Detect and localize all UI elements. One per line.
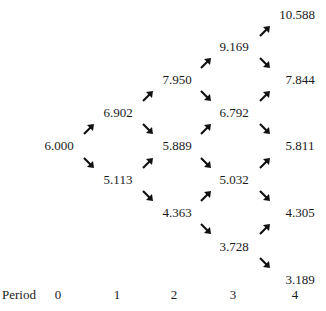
arrow-up-icon xyxy=(258,156,272,170)
node-p3-uud: 6.792 xyxy=(219,105,248,121)
period-0: 0 xyxy=(55,287,62,303)
arrow-down-icon xyxy=(258,189,272,203)
node-p2-ud: 5.889 xyxy=(162,138,191,154)
arrow-up-icon xyxy=(141,89,155,103)
arrow-down-icon xyxy=(199,222,213,236)
arrow-down-icon xyxy=(141,122,155,136)
node-p1-up: 6.902 xyxy=(103,105,132,121)
node-p2-dd: 4.363 xyxy=(162,205,191,221)
node-p4-uddd: 4.305 xyxy=(285,205,314,221)
node-p4-uuud: 7.844 xyxy=(285,72,314,88)
arrow-down-icon xyxy=(82,156,96,170)
node-p4-uuuu: 10.588 xyxy=(279,7,315,23)
node-p1-down: 5.113 xyxy=(104,172,133,188)
arrow-up-icon xyxy=(258,89,272,103)
arrow-up-icon xyxy=(199,56,213,70)
arrow-down-icon xyxy=(141,189,155,203)
period-3: 3 xyxy=(230,287,237,303)
arrow-up-icon xyxy=(258,222,272,236)
period-label: Period xyxy=(2,287,36,303)
arrow-down-icon xyxy=(258,56,272,70)
period-4: 4 xyxy=(292,287,299,303)
node-p3-uuu: 9.169 xyxy=(219,39,248,55)
arrow-up-icon xyxy=(141,156,155,170)
arrow-down-icon xyxy=(199,156,213,170)
period-2: 2 xyxy=(171,287,178,303)
arrow-up-icon xyxy=(199,189,213,203)
node-p4-uudd: 5.811 xyxy=(286,138,315,154)
arrow-down-icon xyxy=(258,256,272,270)
node-p0-0: 6.000 xyxy=(44,138,73,154)
node-p4-dddd: 3.189 xyxy=(285,272,314,288)
node-p2-uu: 7.950 xyxy=(162,72,191,88)
arrow-up-icon xyxy=(199,122,213,136)
arrow-down-icon xyxy=(258,122,272,136)
arrow-down-icon xyxy=(199,89,213,103)
node-p3-ddd: 3.728 xyxy=(219,239,248,255)
period-1: 1 xyxy=(114,287,121,303)
arrow-up-icon xyxy=(82,122,96,136)
node-p3-udd: 5.032 xyxy=(219,172,248,188)
arrow-up-icon xyxy=(258,24,272,38)
